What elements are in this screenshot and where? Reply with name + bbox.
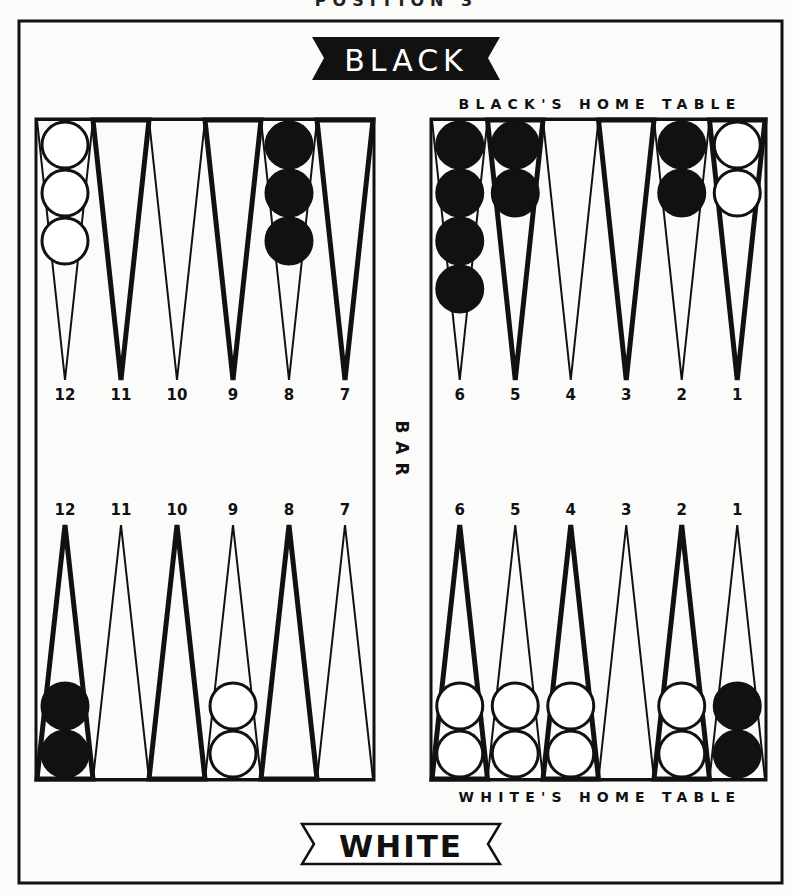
bar-label: BAR (392, 420, 412, 483)
white-checker[interactable] (210, 683, 256, 729)
white-checker[interactable] (548, 683, 594, 729)
white-banner: WHITE (302, 824, 500, 864)
white-checker[interactable] (492, 683, 538, 729)
white-checker[interactable] (659, 683, 705, 729)
board-point-bottom-left-7[interactable] (317, 525, 373, 779)
black-checker[interactable] (437, 266, 483, 312)
outer-table (36, 119, 374, 780)
white-checker[interactable] (42, 122, 88, 168)
point-number-label: 12 (55, 501, 76, 519)
black-banner-label: BLACK (344, 43, 468, 78)
board-point-bottom-left-10[interactable] (149, 525, 205, 779)
board-point-top-left-9[interactable] (205, 120, 261, 380)
black-checker[interactable] (42, 683, 88, 729)
board-point-top-right-3[interactable] (599, 120, 655, 380)
point-number-label: 6 (455, 501, 465, 519)
black-checker[interactable] (659, 122, 705, 168)
point-number-label: 10 (167, 386, 188, 404)
board-point-top-right-4[interactable] (543, 120, 599, 380)
point-number-label: 3 (621, 386, 631, 404)
black-checker[interactable] (714, 731, 760, 777)
board-point-top-left-7[interactable] (317, 120, 373, 380)
black-checker[interactable] (266, 122, 312, 168)
point-number-label: 3 (621, 501, 631, 519)
point-number-label: 2 (677, 386, 687, 404)
point-number-label: 9 (228, 386, 238, 404)
point-number-label: 8 (284, 386, 294, 404)
diagram-caption: POSITION 3 (0, 0, 793, 10)
black-checker[interactable] (437, 218, 483, 264)
black-checker[interactable] (492, 122, 538, 168)
point-number-label: 6 (455, 386, 465, 404)
black-checker[interactable] (437, 170, 483, 216)
white-checker[interactable] (210, 731, 256, 777)
point-number-label: 4 (566, 501, 576, 519)
board-point-bottom-left-8[interactable] (261, 525, 317, 779)
point-number-label: 10 (167, 501, 188, 519)
black-checker[interactable] (492, 170, 538, 216)
black-banner: BLACK (312, 37, 500, 80)
white-checker[interactable] (437, 731, 483, 777)
point-number-label: 5 (510, 386, 520, 404)
point-number-label: 12 (55, 386, 76, 404)
home-table (431, 119, 766, 780)
point-number-label: 5 (510, 501, 520, 519)
black-checker[interactable] (42, 731, 88, 777)
white-checker[interactable] (42, 170, 88, 216)
point-number-label: 9 (228, 501, 238, 519)
white-checker[interactable] (714, 122, 760, 168)
board-point-top-left-10[interactable] (149, 120, 205, 380)
white-checker[interactable] (714, 170, 760, 216)
backgammon-board: BLACK BLACK'S HOME TABLE WHITE'S HOME TA… (0, 0, 793, 896)
point-number-label: 7 (340, 501, 350, 519)
point-number-label: 7 (340, 386, 350, 404)
board-point-top-left-11[interactable] (93, 120, 149, 380)
point-number-label: 1 (732, 386, 742, 404)
white-checker[interactable] (659, 731, 705, 777)
point-number-label: 11 (111, 501, 132, 519)
white-banner-label: WHITE (339, 828, 463, 864)
black-checker[interactable] (437, 122, 483, 168)
black-checker[interactable] (266, 218, 312, 264)
board-point-bottom-right-3[interactable] (599, 525, 655, 779)
white-checker[interactable] (437, 683, 483, 729)
point-number-label: 4 (566, 386, 576, 404)
point-number-label: 8 (284, 501, 294, 519)
board-point-bottom-left-11[interactable] (93, 525, 149, 779)
black-checker[interactable] (266, 170, 312, 216)
point-number-label: 2 (677, 501, 687, 519)
white-checker[interactable] (548, 731, 594, 777)
white-home-table-label: WHITE'S HOME TABLE (459, 789, 742, 805)
black-checker[interactable] (659, 170, 705, 216)
backgammon-diagram: POSITION 3 BLACK BLACK'S HOME TABLE WHIT… (0, 0, 793, 896)
point-number-label: 1 (732, 501, 742, 519)
point-number-label: 11 (111, 386, 132, 404)
black-home-table-label: BLACK'S HOME TABLE (459, 96, 742, 112)
white-checker[interactable] (42, 218, 88, 264)
white-checker[interactable] (492, 731, 538, 777)
black-checker[interactable] (714, 683, 760, 729)
